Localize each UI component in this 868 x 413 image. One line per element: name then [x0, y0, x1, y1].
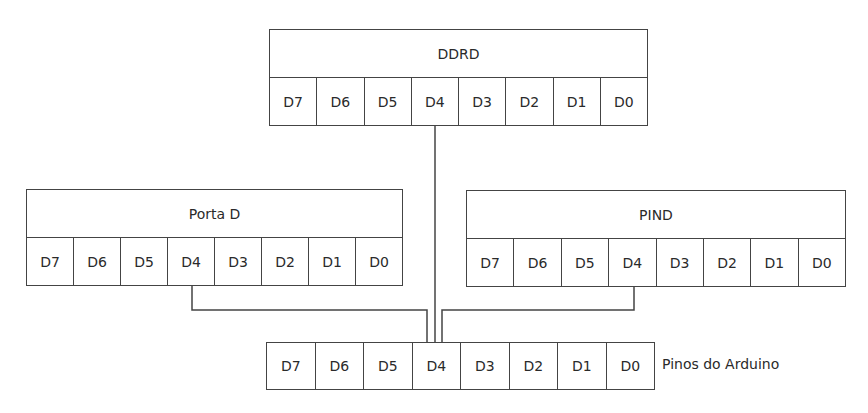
pin-cell: D1	[557, 343, 606, 389]
bit-cell: D2	[703, 239, 750, 286]
arduino-pins-row: D7 D6 D5 D4 D3 D2 D1 D0	[266, 342, 655, 390]
wire-pind-d4	[442, 286, 634, 342]
bit-cell: D3	[656, 239, 703, 286]
bit-cell: D5	[561, 239, 608, 286]
bit-cell: D6	[73, 238, 120, 285]
pin-cell: D3	[460, 343, 509, 389]
pin-cell: D5	[363, 343, 412, 389]
bit-cell: D0	[600, 78, 647, 125]
register-title: Porta D	[27, 190, 402, 238]
bit-row: D7 D6 D5 D4 D3 D2 D1 D0	[467, 239, 845, 286]
pin-cell: D0	[606, 343, 655, 389]
bit-cell: D7	[467, 239, 513, 286]
pins-label: Pinos do Arduino	[662, 356, 779, 372]
bit-cell: D5	[120, 238, 167, 285]
bit-cell: D7	[27, 238, 73, 285]
bit-cell: D3	[214, 238, 261, 285]
bit-cell: D0	[798, 239, 845, 286]
register-title: DDRD	[270, 30, 647, 78]
bit-cell: D5	[364, 78, 411, 125]
register-title: PIND	[467, 191, 845, 239]
bit-cell: D2	[505, 78, 552, 125]
wire-porta-d-d4	[192, 285, 427, 342]
bit-cell: D4	[411, 78, 458, 125]
bit-cell: D0	[355, 238, 402, 285]
bit-cell: D7	[270, 78, 316, 125]
register-porta-d: Porta D D7 D6 D5 D4 D3 D2 D1 D0	[26, 189, 403, 286]
register-pind: PIND D7 D6 D5 D4 D3 D2 D1 D0	[466, 190, 846, 287]
bit-cell: D4	[608, 239, 655, 286]
pin-cell: D4	[412, 343, 461, 389]
pin-cell: D7	[267, 343, 315, 389]
bit-cell: D6	[316, 78, 363, 125]
bit-row: D7 D6 D5 D4 D3 D2 D1 D0	[270, 78, 647, 125]
pin-cell: D2	[509, 343, 558, 389]
pin-row: D7 D6 D5 D4 D3 D2 D1 D0	[267, 343, 654, 389]
bit-cell: D4	[167, 238, 214, 285]
register-ddrd: DDRD D7 D6 D5 D4 D3 D2 D1 D0	[269, 29, 648, 126]
bit-cell: D1	[308, 238, 355, 285]
bit-row: D7 D6 D5 D4 D3 D2 D1 D0	[27, 238, 402, 285]
bit-cell: D1	[750, 239, 797, 286]
bit-cell: D1	[553, 78, 600, 125]
bit-cell: D3	[458, 78, 505, 125]
bit-cell: D2	[261, 238, 308, 285]
pin-cell: D6	[315, 343, 364, 389]
bit-cell: D6	[513, 239, 560, 286]
